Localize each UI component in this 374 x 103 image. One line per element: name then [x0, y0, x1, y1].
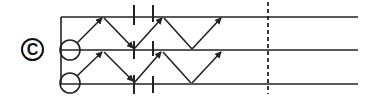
lower-zigzag-arrows: [77, 52, 221, 83]
upper-zigzag-arrows: [77, 18, 221, 49]
zigzag-diagram: [0, 0, 374, 103]
